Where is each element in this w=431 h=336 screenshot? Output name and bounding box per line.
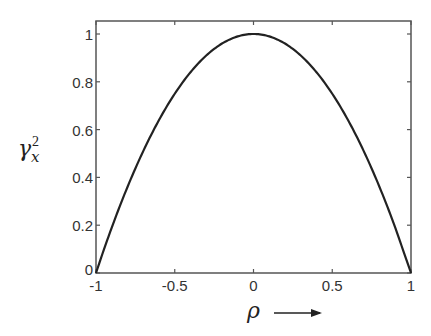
y-tick-label: 0 (85, 261, 93, 278)
plot-area (96, 21, 411, 273)
ylabel-subscript: x (31, 148, 40, 166)
x-tick-label: -0.5 (162, 277, 188, 294)
ylabel-base: γ (18, 136, 32, 161)
x-tick-label: 1 (407, 277, 415, 294)
right-arrow-icon (274, 309, 322, 317)
y-tick-label: 1 (85, 26, 93, 43)
y-tick-label: 0.8 (72, 74, 93, 91)
y-tick-label: 0.2 (72, 217, 93, 234)
xlabel-symbol: ρ (246, 298, 260, 323)
x-tick-label: 0 (249, 277, 257, 294)
y-tick-label: 0.4 (72, 169, 93, 186)
x-tick-label: 0.5 (322, 277, 343, 294)
chart: 00.20.40.60.81 -1-0.500.51 γ 2 x ρ (0, 0, 431, 336)
y-axis-label: γ 2 x (18, 134, 40, 166)
x-axis-label: ρ (246, 298, 322, 323)
ylabel-superscript: 2 (32, 134, 39, 149)
x-tick-label: -1 (89, 277, 102, 294)
y-tick-label: 0.6 (72, 122, 93, 139)
